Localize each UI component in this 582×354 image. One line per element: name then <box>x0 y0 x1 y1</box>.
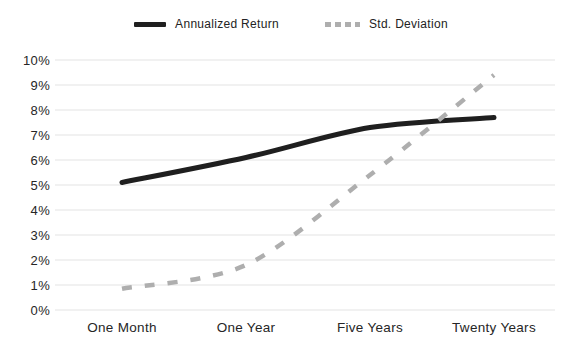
x-axis-label: One Year <box>217 320 276 335</box>
y-tick-label: 5% <box>31 178 51 193</box>
y-tick-label: 2% <box>31 253 51 268</box>
x-axis-label: Twenty Years <box>452 320 536 335</box>
chart-canvas: 0%1%2%3%4%5%6%7%8%9%10%One MonthOne Year… <box>0 0 582 354</box>
chart-container: Annualized Return Std. Deviation 0%1%2%3… <box>0 0 582 354</box>
annualized-return-line <box>122 118 494 183</box>
legend-item-annualized-return: Annualized Return <box>134 17 279 31</box>
y-tick-label: 7% <box>31 128 51 143</box>
std-deviation-line <box>122 75 494 289</box>
x-axis-label: Five Years <box>337 320 403 335</box>
y-tick-label: 6% <box>31 153 51 168</box>
y-tick-label: 8% <box>31 103 51 118</box>
y-tick-label: 10% <box>23 53 50 68</box>
y-tick-label: 3% <box>31 228 51 243</box>
legend-label-annualized-return: Annualized Return <box>175 17 279 31</box>
y-tick-label: 4% <box>31 203 51 218</box>
legend-item-std-deviation: Std. Deviation <box>325 17 448 31</box>
y-tick-label: 9% <box>31 78 51 93</box>
annualized-return-line-swatch <box>134 22 166 27</box>
legend: Annualized Return Std. Deviation <box>0 17 582 31</box>
legend-label-std-deviation: Std. Deviation <box>369 17 448 31</box>
y-tick-label: 0% <box>31 303 51 318</box>
x-axis-label: One Month <box>87 320 157 335</box>
y-tick-label: 1% <box>31 278 51 293</box>
std-deviation-line-swatch <box>325 22 360 27</box>
